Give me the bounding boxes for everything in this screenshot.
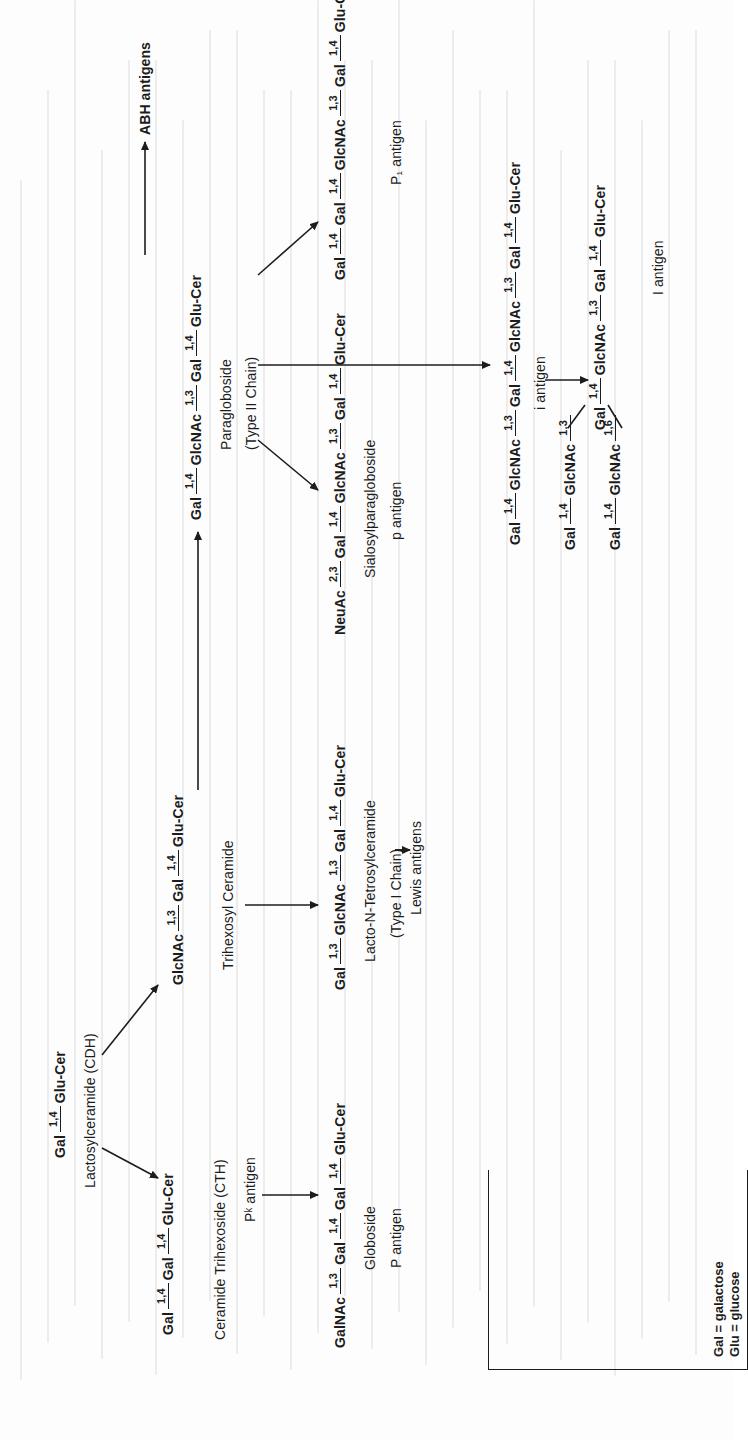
cth-chain: Gal1,4Gal1,4Glu-Cer xyxy=(160,1173,176,1335)
p1-antigen-label: P₁ antigen xyxy=(388,120,404,185)
glycosidic-bond: 1,3 xyxy=(570,415,571,441)
sialosyl-name: Sialosylparagloboside xyxy=(362,440,378,578)
sugar-residue: Gal xyxy=(170,879,186,902)
sugar-residue: GlcNAc xyxy=(332,884,348,935)
trihexosyl-name: Trihexosyl Ceramide xyxy=(220,840,236,970)
sugar-residue: Glu-Cer xyxy=(188,275,204,327)
linkage-label: 1,3 xyxy=(328,855,339,881)
sugar-residue: Gal xyxy=(332,397,348,420)
glycosidic-bond: 1,3 xyxy=(196,385,197,411)
linkage-label: 1,3 xyxy=(503,272,514,298)
linkage-label: 1,6 xyxy=(603,415,614,441)
linkage-label: 1,4 xyxy=(328,1213,339,1239)
sugar-residue: Gal xyxy=(507,246,523,269)
linkage-label: 1,4 xyxy=(48,1106,59,1132)
glycosidic-bond: 1,4 xyxy=(60,1106,61,1132)
linkage-label: 2,3 xyxy=(328,561,339,587)
sugar-residue: Gal xyxy=(52,1135,68,1158)
linkage-label: 1,3 xyxy=(328,938,339,964)
glycosidic-bond: 1,4 xyxy=(340,506,341,532)
sugar-residue: GalNAc xyxy=(332,1297,348,1348)
sugar-residue: Glu-Cer xyxy=(52,1051,68,1103)
sugar-residue: Gal xyxy=(332,1187,348,1210)
legend-row-gal: Gal = galactose xyxy=(711,1261,726,1357)
linkage-label: 1,4 xyxy=(328,800,339,826)
linkage-label: 1,4 xyxy=(328,228,339,254)
linkage-label: 1,4 xyxy=(166,850,177,876)
sugar-residue: Gal xyxy=(332,535,348,558)
sugar-residue: Gal xyxy=(332,829,348,852)
linkage-label: 1,3 xyxy=(588,295,599,321)
I-antigen-core-chain: Gal1,4GlcNAc1,3Gal1,4Glu-Cer xyxy=(592,185,608,430)
sugar-residue: Gal xyxy=(160,1312,176,1335)
glycosidic-bond: 1,4 xyxy=(615,498,616,524)
glycosidic-bond: 1,4 xyxy=(340,368,341,394)
linkage-label: 1,3 xyxy=(503,410,514,436)
abh-antigens-label: ABH antigens xyxy=(137,42,153,135)
glycosidic-bond: 1,3 xyxy=(340,90,341,116)
I-antigen-branch-a: Gal1,4GlcNAc1,3 xyxy=(562,412,578,550)
linkage-label: 1,4 xyxy=(328,506,339,532)
glycosidic-bond: 1,4 xyxy=(168,1283,169,1309)
sugar-residue: Gal xyxy=(160,1257,176,1280)
linkage-label: 1,3 xyxy=(328,90,339,116)
linkage-label: 1,3 xyxy=(166,905,177,931)
glycosidic-bond: 1,3 xyxy=(178,905,179,931)
glycosidic-bond: 1,4 xyxy=(340,35,341,61)
linkage-label: 1,4 xyxy=(328,1158,339,1184)
legend-row-glu: Glu = glucose xyxy=(727,1271,742,1357)
lacto-n-chain: Gal1,3GlcNAc1,3Gal1,4Glu-Cer xyxy=(332,745,348,990)
paragloboside-chain: Gal1,4GlcNAc1,3Gal1,4Glu-Cer xyxy=(188,275,204,520)
glycosidic-bond: 1,3 xyxy=(515,410,516,436)
linkage-label: 1,4 xyxy=(588,378,599,404)
sugar-residue: Gal xyxy=(507,384,523,407)
glycosidic-bond: 1,4 xyxy=(168,1228,169,1254)
sugar-residue: Gal xyxy=(188,497,204,520)
glycosidic-bond: 1,3 xyxy=(340,1268,341,1294)
paragloboside-name: Paragloboside xyxy=(218,359,234,450)
cth-name: Ceramide Trihexoside (CTH) xyxy=(212,1159,228,1340)
glycosidic-bond: 1,4 xyxy=(515,493,516,519)
linkage-label: 1,3 xyxy=(558,415,569,441)
sugar-residue: GlcNAc xyxy=(188,414,204,465)
glycosidic-bond: 1,4 xyxy=(340,800,341,826)
glycosidic-bond: 1,4 xyxy=(340,228,341,254)
glycosidic-bond: 1,3 xyxy=(515,272,516,298)
sugar-residue: Glu-Cer xyxy=(332,1103,348,1155)
I-antigen-branch-b: Gal1,4GlcNAc1,6 xyxy=(607,412,623,550)
linkage-label: 1,4 xyxy=(184,468,195,494)
glycosidic-bond: 2,3 xyxy=(340,561,341,587)
sugar-residue: Gal xyxy=(332,1242,348,1265)
trihexosyl-chain: GlcNAc1,3Gal1,4Glu-Cer xyxy=(170,795,186,985)
glycosidic-bond: 1,4 xyxy=(600,240,601,266)
sugar-residue: Gal xyxy=(592,269,608,292)
linkage-label: 1,4 xyxy=(156,1228,167,1254)
abbreviation-legend: Gal = galactose Glu = glucose xyxy=(488,1170,748,1370)
linkage-label: 1,4 xyxy=(588,240,599,266)
linkage-label: 1,4 xyxy=(603,498,614,524)
pk-antigen-label: Pᵏ antigen xyxy=(242,1157,258,1222)
linkage-label: 1,4 xyxy=(328,35,339,61)
linkage-label: 1,4 xyxy=(184,330,195,356)
glycosidic-bond: 1,4 xyxy=(196,330,197,356)
sugar-residue: Gal xyxy=(332,257,348,280)
sugar-residue: Glu-Cer xyxy=(592,185,608,237)
sugar-residue: GlcNAc xyxy=(332,452,348,503)
linkage-label: 1,3 xyxy=(184,385,195,411)
linkage-label: 1,4 xyxy=(503,217,514,243)
sugar-residue: Glu-Cer xyxy=(332,745,348,797)
glycosidic-bond: 1,4 xyxy=(600,378,601,404)
linkage-label: 1,3 xyxy=(328,423,339,449)
glycosidic-bond: 1,4 xyxy=(196,468,197,494)
sugar-residue: Gal xyxy=(332,967,348,990)
glycosidic-bond: 1,3 xyxy=(340,423,341,449)
globoside-chain: GalNAc1,3Gal1,4Gal1,4Glu-Cer xyxy=(332,1103,348,1348)
sugar-residue: Gal xyxy=(332,202,348,225)
sugar-residue: GlcNAc xyxy=(607,444,623,495)
lactosyl-name: Lactosylceramide (CDH) xyxy=(82,1033,98,1188)
linkage-label: 1,4 xyxy=(558,498,569,524)
glycosidic-bond: 1,6 xyxy=(615,415,616,441)
I-antigen-label: I antigen xyxy=(650,240,666,295)
sugar-residue: GlcNAc xyxy=(507,439,523,490)
glycosidic-bond: 1,4 xyxy=(515,355,516,381)
